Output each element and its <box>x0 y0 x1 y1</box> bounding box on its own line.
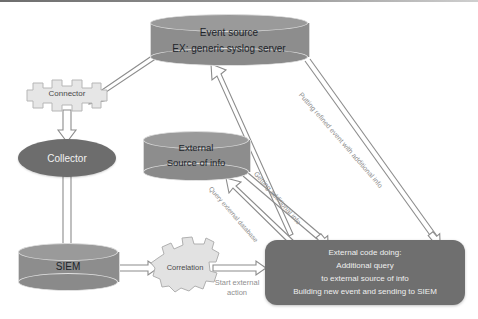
siem-bottom-ellipse <box>18 273 118 291</box>
event-source-line1: Event source <box>150 25 308 41</box>
siem-label: SIEM <box>18 259 118 275</box>
diagram-canvas: .ho { fill:#ffffff; stroke:#8c8c8c; stro… <box>0 0 478 319</box>
external-source-text: External Source of info <box>143 141 249 170</box>
external-source-line1: External <box>143 141 249 156</box>
correlation-label: Correlation <box>151 263 219 272</box>
event-source-line2: EX: generic syslog server <box>150 40 308 56</box>
node-siem[interactable]: SIEM <box>18 243 118 291</box>
external-code-line-2: Additional query <box>336 262 393 270</box>
external-code-line-3: to external source of info <box>321 275 409 283</box>
connector-collector-to-siem <box>63 176 71 244</box>
line-refined-event-to-box <box>305 59 437 238</box>
start-external-line2: action <box>199 288 275 298</box>
external-code-line-1: External code doing: <box>329 249 402 257</box>
edge-label-start-external-action: Start external action <box>199 278 275 298</box>
connector-label: Connector <box>27 89 107 98</box>
arrow-connector-to-collector <box>58 110 76 142</box>
collector-label: Collector <box>47 153 86 164</box>
external-code-line-4: Building new event and sending to SIEM <box>293 288 437 296</box>
node-external-code-box[interactable]: External code doing: Additional query to… <box>265 240 465 305</box>
arrow-correlation-to-externalcode <box>213 261 266 275</box>
external-source-line2: Source of info <box>143 156 249 171</box>
node-event-source[interactable]: Event source EX: generic syslog server <box>150 14 308 66</box>
start-external-line1: Start external <box>199 278 275 288</box>
node-collector[interactable]: Collector <box>18 139 116 177</box>
event-source-text: Event source EX: generic syslog server <box>150 25 308 56</box>
node-external-source[interactable]: External Source of info <box>143 131 249 181</box>
